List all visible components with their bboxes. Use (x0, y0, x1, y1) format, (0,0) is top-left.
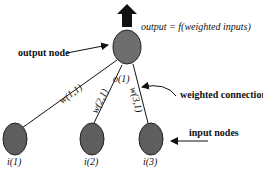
input-node-label-2: i(2) (84, 156, 99, 168)
input-node-3 (139, 123, 163, 155)
weight-label-w11: w(1,1) (57, 81, 85, 106)
output-arrow-icon (117, 4, 137, 27)
output-node (113, 30, 141, 64)
input-node-2 (80, 123, 104, 155)
weight-label-w21: w(2,1) (89, 86, 111, 115)
output-formula: output = f(weighted inputs) (141, 21, 251, 33)
neural-network-diagram: output = f(weighted inputs) output node … (0, 0, 263, 171)
output-node-annotation: output node (18, 47, 70, 58)
input-nodes-annotation: input nodes (189, 127, 239, 138)
input-node-1 (3, 123, 27, 155)
weighted-connection-annotation: weighted connection (180, 89, 263, 100)
input-node-label-1: i(1) (7, 156, 22, 168)
input-node-label-3: i(3) (143, 156, 158, 168)
output-node-label: o(1) (113, 73, 130, 85)
output-node-pointer (67, 45, 108, 53)
weighted-connection-pointer (142, 86, 176, 96)
weight-label-w31: w(3,1) (127, 86, 145, 115)
